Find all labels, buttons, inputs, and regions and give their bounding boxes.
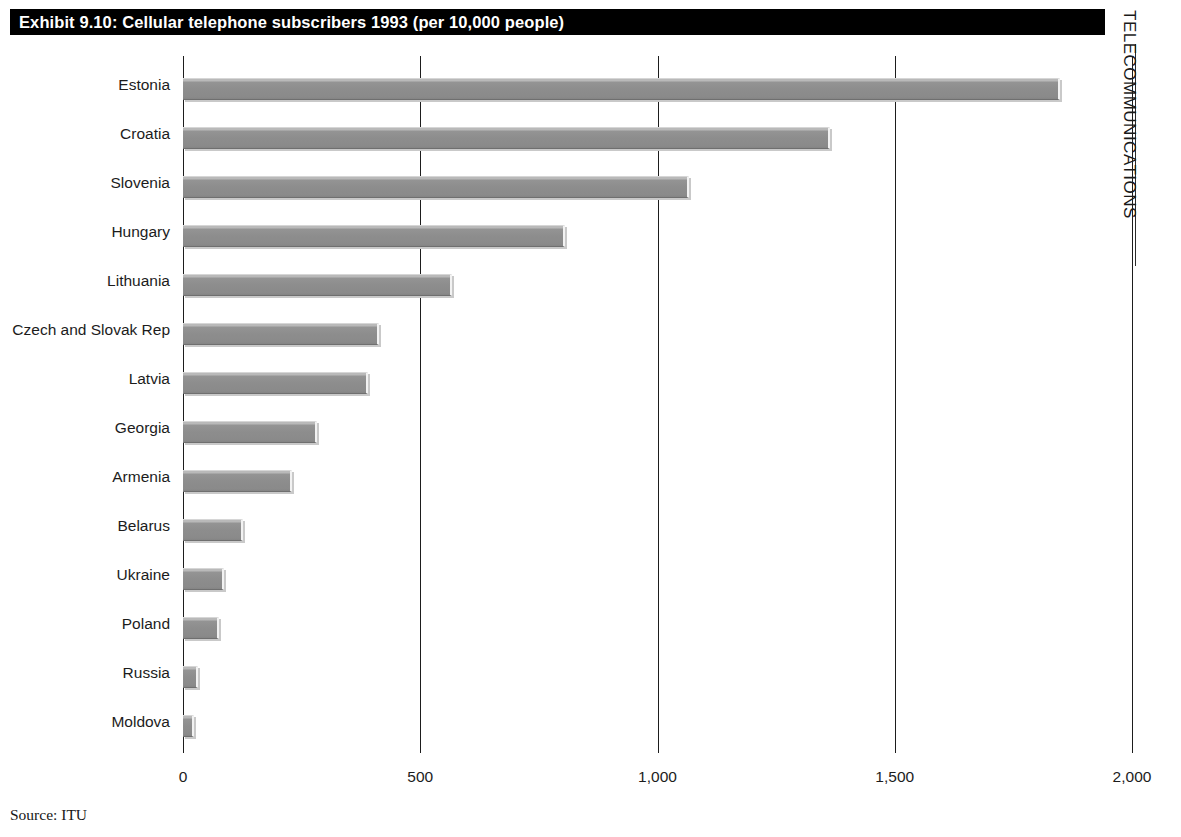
bar: [183, 323, 379, 345]
category-label: Czech and Slovak Rep: [0, 321, 170, 339]
bar-row: Lithuania: [0, 260, 1181, 309]
category-label: Ukraine: [0, 566, 170, 584]
bar-container: [183, 323, 379, 345]
bar-container: [183, 274, 452, 296]
x-tick-label: 2,000: [1113, 768, 1152, 786]
bar: [183, 715, 194, 737]
bar-container: [183, 470, 292, 492]
category-label: Georgia: [0, 419, 170, 437]
x-tick-label: 0: [179, 768, 188, 786]
bar-container: [183, 666, 198, 688]
bar: [183, 470, 292, 492]
category-label: Moldova: [0, 713, 170, 731]
bar-container: [183, 715, 194, 737]
bar-row: Moldova: [0, 701, 1181, 750]
bar-row: Russia: [0, 652, 1181, 701]
x-tick-label: 1,000: [638, 768, 677, 786]
category-label: Belarus: [0, 517, 170, 535]
bar-row: Ukraine: [0, 554, 1181, 603]
category-label: Estonia: [0, 76, 170, 94]
bar-row: Belarus: [0, 505, 1181, 554]
bar-row: Latvia: [0, 358, 1181, 407]
bar: [183, 617, 219, 639]
bar-container: [183, 519, 243, 541]
category-label: Poland: [0, 615, 170, 633]
bar-container: [183, 78, 1060, 100]
bar: [183, 176, 689, 198]
bar: [183, 274, 452, 296]
bar: [183, 519, 243, 541]
category-label: Croatia: [0, 125, 170, 143]
x-tick-label: 1,500: [875, 768, 914, 786]
category-label: Armenia: [0, 468, 170, 486]
category-label: Lithuania: [0, 272, 170, 290]
bar-container: [183, 176, 689, 198]
bar: [183, 127, 830, 149]
bar-row: Estonia: [0, 64, 1181, 113]
bar: [183, 225, 565, 247]
bar-container: [183, 127, 830, 149]
x-tick-label: 500: [407, 768, 433, 786]
page-title: Exhibit 9.10: Cellular telephone subscri…: [10, 13, 564, 32]
bar-row: Hungary: [0, 211, 1181, 260]
bar: [183, 78, 1060, 100]
bar-container: [183, 617, 219, 639]
category-label: Slovenia: [0, 174, 170, 192]
bar-row: Croatia: [0, 113, 1181, 162]
x-axis-tick-labels: 05001,0001,5002,000: [0, 768, 1181, 794]
bar-row: Poland: [0, 603, 1181, 652]
bar: [183, 421, 317, 443]
bar-container: [183, 421, 317, 443]
bar-row: Slovenia: [0, 162, 1181, 211]
bar-container: [183, 568, 224, 590]
bar-row: Czech and Slovak Rep: [0, 309, 1181, 358]
bar-row: Armenia: [0, 456, 1181, 505]
category-label: Hungary: [0, 223, 170, 241]
bar: [183, 372, 368, 394]
category-label: Russia: [0, 664, 170, 682]
bar: [183, 568, 224, 590]
exhibit-title-banner: Exhibit 9.10: Cellular telephone subscri…: [10, 9, 1105, 35]
bar: [183, 666, 198, 688]
bar-container: [183, 372, 368, 394]
source-note: Source: ITU: [10, 806, 87, 824]
category-label: Latvia: [0, 370, 170, 388]
bar-chart-plot-area: EstoniaCroatiaSloveniaHungaryLithuaniaCz…: [0, 48, 1181, 768]
bar-container: [183, 225, 565, 247]
bar-row: Georgia: [0, 407, 1181, 456]
